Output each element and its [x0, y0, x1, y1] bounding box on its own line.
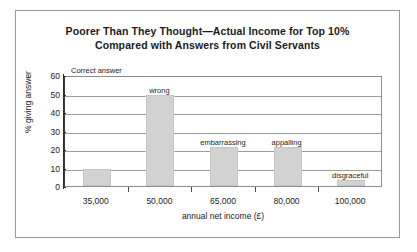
annotation-disgraceful: disgraceful	[300, 171, 400, 180]
y-axis-tick-label: 20	[34, 146, 60, 155]
bar-50000	[146, 95, 174, 186]
y-axis-tick-labels: 0102030405060	[30, 0, 60, 252]
annotation-correct-answer: Correct answer	[71, 66, 122, 75]
gridline	[65, 114, 381, 115]
gridline	[65, 133, 381, 134]
y-axis-tick-mark	[63, 132, 66, 133]
y-axis-tick-label: 30	[34, 128, 60, 137]
x-axis-tick-mark	[191, 187, 192, 192]
bar-80000	[274, 147, 302, 186]
bar-65000	[210, 147, 238, 186]
annotation-wrong: wrong	[109, 86, 209, 95]
y-axis-tick-label: 0	[34, 183, 60, 192]
y-axis-tick-label: 60	[34, 72, 60, 81]
y-axis-tick-label: 40	[34, 109, 60, 118]
y-axis-tick-mark	[63, 95, 66, 96]
x-axis-tick-mark	[255, 187, 256, 192]
x-axis-title: annual net income (£)	[64, 211, 382, 221]
x-axis-tick-mark	[128, 187, 129, 192]
y-axis-tick-label: 10	[34, 165, 60, 174]
annotation-appalling: appalling	[237, 138, 337, 147]
y-axis-tick-mark	[63, 169, 66, 170]
y-axis-tick-mark	[63, 113, 66, 114]
y-axis-tick-label: 50	[34, 91, 60, 100]
x-axis-tick-label: 100,000	[310, 196, 390, 206]
gridline	[65, 96, 381, 97]
bar-100000	[337, 180, 365, 186]
chart-title-line-2: Compared with Answers from Civil Servant…	[15, 38, 400, 52]
chart-title: Poorer Than They Thought—Actual Income f…	[15, 24, 400, 52]
y-axis-tick-mark	[63, 187, 66, 188]
chart-figure: Poorer Than They Thought—Actual Income f…	[0, 0, 417, 252]
y-axis-tick-mark	[63, 76, 66, 77]
bar-35000	[83, 169, 111, 186]
x-axis-tick-mark	[318, 187, 319, 192]
chart-title-line-1: Poorer Than They Thought—Actual Income f…	[15, 24, 400, 38]
y-axis-tick-mark	[63, 150, 66, 151]
